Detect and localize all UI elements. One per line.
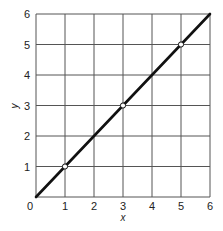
x-axis-label: x <box>120 212 127 223</box>
x-tick-label: 6 <box>207 200 213 212</box>
x-tick-label: 1 <box>62 200 68 212</box>
data-point-marker <box>120 103 125 108</box>
line-chart: 0123456 123456 x y <box>0 0 223 231</box>
y-tick-label: 4 <box>24 69 30 81</box>
data-point-marker <box>178 42 183 47</box>
x-tick-label: 5 <box>178 200 184 212</box>
y-tick-label: 3 <box>24 100 30 112</box>
y-tick-label: 2 <box>24 130 30 142</box>
x-axis-ticks: 0123456 <box>27 200 213 212</box>
y-axis-label: y <box>9 103 20 110</box>
y-tick-label: 5 <box>24 39 30 51</box>
y-tick-label: 1 <box>24 161 30 173</box>
data-point-marker <box>62 164 67 169</box>
y-axis-ticks: 123456 <box>24 8 30 173</box>
x-tick-label: 4 <box>149 200 155 212</box>
x-tick-label: 2 <box>91 200 97 212</box>
x-tick-label: 0 <box>27 200 33 212</box>
x-tick-label: 3 <box>120 200 126 212</box>
y-tick-label: 6 <box>24 8 30 20</box>
